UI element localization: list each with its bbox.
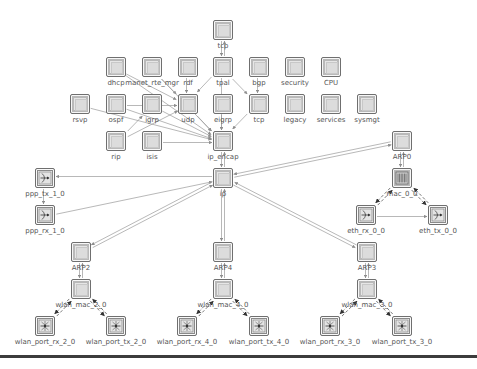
node-label: rdf xyxy=(183,79,193,87)
node-wtx4[interactable] xyxy=(249,316,269,336)
packet-stream-ip-to-arp3[interactable] xyxy=(233,185,355,248)
node-label: wlan_port_rx_4_0 xyxy=(157,338,217,346)
node-label: manet_rte_mgr xyxy=(125,79,179,87)
node-rip[interactable] xyxy=(106,131,126,151)
node-label: isis xyxy=(146,153,157,161)
node-arp2[interactable] xyxy=(71,242,91,262)
packet-stream-ip-to-arp2[interactable] xyxy=(91,182,211,245)
node-wtx2[interactable] xyxy=(106,316,126,336)
node-rdf[interactable] xyxy=(178,57,198,77)
node-isis[interactable] xyxy=(142,131,162,151)
node-label: wlan_mac_4_0 xyxy=(198,301,249,309)
packet-stream-arp3-to-ip[interactable] xyxy=(235,182,357,245)
node-tcp[interactable] xyxy=(249,94,269,114)
node-tpal[interactable] xyxy=(213,57,233,77)
node-label: rip xyxy=(111,153,120,161)
node-manet[interactable] xyxy=(142,57,162,77)
node-label: tcp xyxy=(253,116,264,124)
module-icon xyxy=(254,62,266,74)
node-label: ppp_rx_1_0 xyxy=(25,227,65,235)
node-legacy[interactable] xyxy=(285,94,305,114)
node-label: tpal xyxy=(216,79,229,87)
module-icon xyxy=(111,99,123,111)
node-label: tcp xyxy=(217,42,228,50)
node-services[interactable] xyxy=(321,94,341,114)
node-security[interactable] xyxy=(285,57,305,77)
module-icon xyxy=(218,136,230,148)
module-icon xyxy=(76,284,88,296)
module-icon xyxy=(111,62,123,74)
node-sysmgt[interactable] xyxy=(357,94,377,114)
node-eth-rx[interactable] xyxy=(356,205,376,225)
module-icon xyxy=(218,247,230,259)
node-label: legacy xyxy=(284,116,307,124)
node-label: ospf xyxy=(109,116,124,124)
node-label: wlan_port_tx_4_0 xyxy=(229,338,290,346)
node-label: eth_rx_0_0 xyxy=(347,227,385,235)
module-icon xyxy=(183,62,195,74)
node-label: igrp xyxy=(145,116,159,124)
node-eigrp[interactable] xyxy=(213,94,233,114)
node-rsvp[interactable] xyxy=(70,94,90,114)
node-wmac3[interactable] xyxy=(357,279,377,299)
node-label: ARP2 xyxy=(72,264,90,272)
node-cpu[interactable] xyxy=(321,57,341,77)
node-wtx3[interactable] xyxy=(392,316,412,336)
module-icon xyxy=(75,99,87,111)
node-top[interactable] xyxy=(213,20,233,40)
module-icon xyxy=(218,62,230,74)
module-icon xyxy=(111,136,123,148)
node-label: ppp_tx_1_0 xyxy=(25,190,65,198)
packet-stream-ip-to-arp0[interactable] xyxy=(234,145,391,177)
node-wrx2[interactable] xyxy=(35,316,55,336)
node-label: rsvp xyxy=(72,116,87,124)
node-label: eth_tx_0_0 xyxy=(419,227,457,235)
node-label: wlan_port_rx_2_0 xyxy=(15,338,75,346)
node-arp4[interactable] xyxy=(213,242,233,262)
status-area xyxy=(0,358,477,369)
module-icon xyxy=(362,99,374,111)
node-label: mac_0_0 xyxy=(387,190,418,198)
node-label: dhcp xyxy=(107,79,124,87)
packet-stream-tpal-to-tcp[interactable] xyxy=(233,79,248,94)
node-ppp-rx[interactable] xyxy=(35,205,55,225)
node-label: wlan_port_tx_2_0 xyxy=(86,338,147,346)
node-wmac2[interactable] xyxy=(71,279,91,299)
node-bgp[interactable] xyxy=(249,57,269,77)
packet-stream-tpal-to-udp[interactable] xyxy=(197,77,211,92)
packet-stream-ospf-to-ip_encap[interactable] xyxy=(127,109,212,138)
node-label: eigrp xyxy=(214,116,232,124)
node-igrp[interactable] xyxy=(142,94,162,114)
node-ip-encap[interactable] xyxy=(213,131,233,151)
node-udp[interactable] xyxy=(178,94,198,114)
node-ospf[interactable] xyxy=(106,94,126,114)
node-wrx4[interactable] xyxy=(177,316,197,336)
node-mac00[interactable] xyxy=(392,168,412,188)
module-icon xyxy=(254,99,266,111)
node-ip[interactable] xyxy=(213,168,233,188)
packet-stream-arp0-to-ip[interactable] xyxy=(234,142,391,174)
module-icon xyxy=(362,284,374,296)
node-wrx3[interactable] xyxy=(320,316,340,336)
node-ppp-tx[interactable] xyxy=(35,168,55,188)
node-model-canvas[interactable]: tcpdhcpmanet_rte_mgrrdftpalbgpsecurityCP… xyxy=(0,0,477,355)
module-icon xyxy=(218,173,230,185)
node-eth-tx[interactable] xyxy=(428,205,448,225)
node-label: security xyxy=(281,79,309,87)
node-label: wlan_mac_3_0 xyxy=(342,301,393,309)
node-arp0[interactable] xyxy=(392,131,412,151)
node-dhcp[interactable] xyxy=(106,57,126,77)
node-label: ip_encap xyxy=(207,153,238,161)
module-icon xyxy=(326,99,338,111)
module-icon xyxy=(218,99,230,111)
packet-stream-tcp-to-ip_encap[interactable] xyxy=(233,114,248,129)
packet-stream-ppp_rx-to-ip[interactable] xyxy=(56,182,212,214)
node-label: ARP0 xyxy=(393,153,411,161)
node-label: CPU xyxy=(324,79,338,87)
node-arp3[interactable] xyxy=(357,242,377,262)
node-wmac4[interactable] xyxy=(213,279,233,299)
module-icon xyxy=(397,136,409,148)
node-label: bgp xyxy=(252,79,265,87)
packet-stream-udp-to-ip_encap[interactable] xyxy=(197,116,211,131)
module-icon xyxy=(290,62,302,74)
